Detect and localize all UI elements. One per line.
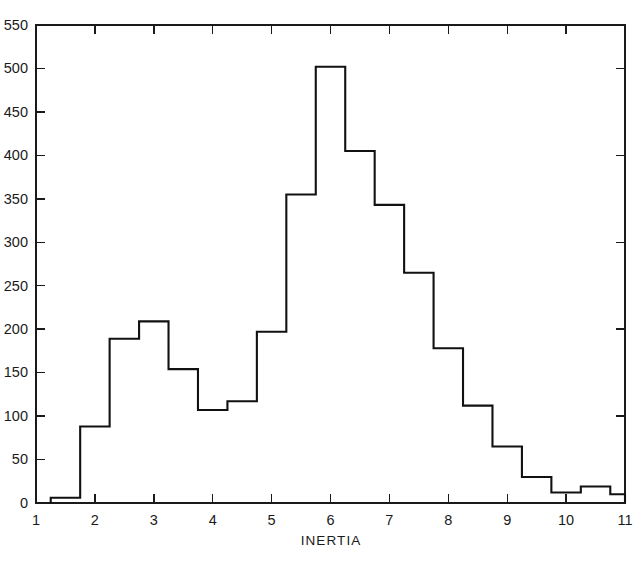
x-axis-ticks [36, 25, 625, 503]
y-axis-ticks [36, 25, 625, 503]
x-tick-label: 4 [209, 512, 217, 528]
histogram-outline [51, 67, 625, 503]
y-tick-label: 400 [4, 147, 28, 163]
x-axis-tick-labels: 1234567891011 [32, 512, 633, 528]
y-tick-label: 50 [12, 451, 28, 467]
y-tick-label: 500 [4, 60, 28, 76]
x-tick-label: 9 [503, 512, 511, 528]
histogram-figure: 050100150200250300350400450500550 123456… [0, 0, 638, 568]
y-tick-label: 300 [4, 234, 28, 250]
x-tick-label: 1 [32, 512, 40, 528]
histogram-plot: 050100150200250300350400450500550 123456… [0, 0, 638, 568]
y-tick-label: 150 [4, 364, 28, 380]
y-tick-label: 100 [4, 408, 28, 424]
x-tick-label: 10 [558, 512, 574, 528]
plot-frame [36, 25, 625, 503]
y-axis-tick-labels: 050100150200250300350400450500550 [4, 17, 28, 511]
y-tick-label: 550 [4, 17, 28, 33]
y-tick-label: 250 [4, 278, 28, 294]
x-axis-title: INERTIA [301, 533, 362, 548]
y-tick-label: 450 [4, 104, 28, 120]
x-tick-label: 5 [268, 512, 276, 528]
x-tick-label: 7 [385, 512, 393, 528]
x-tick-label: 2 [91, 512, 99, 528]
x-tick-label: 6 [326, 512, 334, 528]
y-tick-label: 0 [20, 495, 28, 511]
x-tick-label: 8 [444, 512, 452, 528]
x-tick-label: 3 [150, 512, 158, 528]
x-tick-label: 11 [617, 512, 632, 528]
y-tick-label: 350 [4, 191, 28, 207]
y-tick-label: 200 [4, 321, 28, 337]
